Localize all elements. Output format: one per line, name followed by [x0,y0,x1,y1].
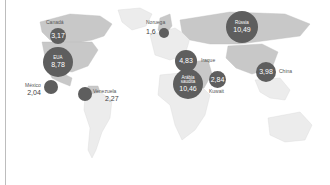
canada-value: 3,17 [51,32,65,39]
norway-label: Noruega [146,20,165,26]
saudi-arabia-bubble: Arábia saudita 10,46 [173,69,203,99]
mexico-value: 2,04 [25,89,41,97]
russia-bubble: Rússia 10,49 [226,11,258,43]
iraq-label: Iraque [201,58,215,64]
venezuela-value: 2,27 [93,95,119,103]
kuwait-bubble: 2,84 [209,71,226,88]
mexico-label: México 2,04 [25,83,41,96]
norway-bubble [159,28,169,38]
canada-label: Canadá [46,20,64,26]
china-value: 3,98 [259,68,273,75]
russia-value: 10,49 [233,26,251,33]
se-asia-shape [255,78,290,100]
norway-value: 1,6 [146,28,156,36]
canada-bubble: 3,17 [50,28,66,44]
china-label: China [279,69,292,75]
venezuela-bubble [78,87,92,101]
mexico-name: México [25,83,41,89]
iraq-value: 4,83 [179,57,193,64]
mexico-bubble [44,80,58,94]
kuwait-value: 2,84 [211,76,225,83]
venezuela-label: Venezuela 2,27 [93,89,119,102]
saudi-value: 10,46 [179,85,197,92]
venezuela-name: Venezuela [93,89,119,95]
usa-value: 8,78 [51,61,65,68]
china-bubble: 3,98 [256,62,276,82]
australia-shape [268,112,312,142]
kuwait-label: Kuwait [209,89,224,95]
usa-bubble: EUA 8,78 [43,47,73,77]
